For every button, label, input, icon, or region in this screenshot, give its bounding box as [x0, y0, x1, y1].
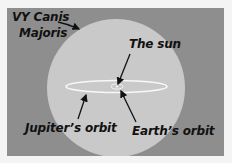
label-vy-canis-line1: VY Canis [12, 11, 69, 24]
label-jupiter-orbit: Jupiter’s orbit [25, 122, 117, 135]
label-earth-orbit: Earth’s orbit [132, 125, 214, 138]
sun-dot [116, 86, 118, 88]
label-vy-canis-line2: Majoris [19, 27, 67, 40]
label-the-sun: The sun [129, 38, 181, 51]
star-comparison-diagram [0, 0, 232, 163]
